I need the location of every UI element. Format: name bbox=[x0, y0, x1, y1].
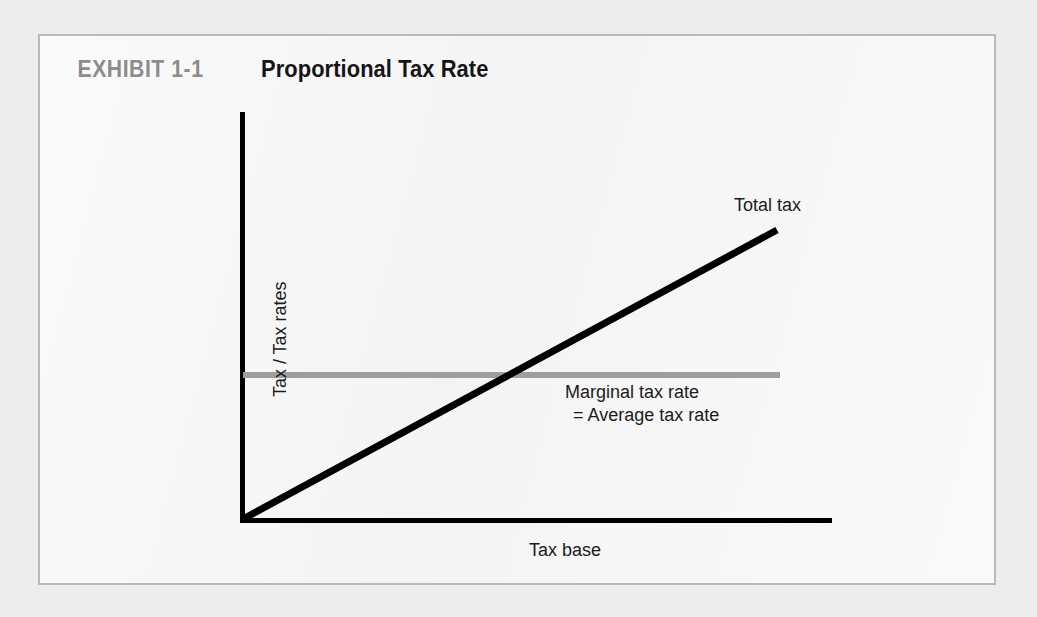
exhibit-number-tag: EXHIBIT 1-1 bbox=[77, 56, 203, 83]
exhibit-canvas: EXHIBIT 1-1 Proportional Tax Rate Tax / … bbox=[0, 0, 1037, 617]
marginal-average-rate-annotation: Marginal tax rate = Average tax rate bbox=[565, 381, 719, 426]
chart-plot-area: Tax / Tax rates Tax base Total tax Margi… bbox=[40, 36, 994, 583]
y-axis-label: Tax / Tax rates bbox=[269, 259, 292, 419]
x-axis-label: Tax base bbox=[495, 539, 635, 562]
average-tax-rate-text: = Average tax rate bbox=[565, 404, 719, 427]
total-tax-annotation: Total tax bbox=[734, 194, 801, 217]
exhibit-header: EXHIBIT 1-1 Proportional Tax Rate bbox=[72, 56, 494, 83]
marginal-tax-rate-text: Marginal tax rate bbox=[565, 382, 699, 402]
chart-svg bbox=[40, 36, 998, 587]
exhibit-panel: EXHIBIT 1-1 Proportional Tax Rate Tax / … bbox=[38, 34, 996, 585]
exhibit-title: Proportional Tax Rate bbox=[261, 56, 488, 83]
